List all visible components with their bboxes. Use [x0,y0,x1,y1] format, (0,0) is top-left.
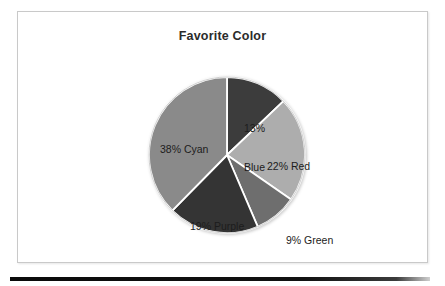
pie-label-blue-percent: 13% [244,122,265,135]
pie-label-purple: 19% Purple [190,220,244,233]
screenshot-root: Favorite Color 13% Blue 22% Red 9% Green… [0,0,445,286]
pie-label-blue-name: Blue [244,161,265,174]
pie-label-cyan: 38% Cyan [160,143,208,156]
pie-label-green: 9% Green [286,234,333,247]
page-title: Favorite Color [18,29,427,43]
pie-label-blue: 13% Blue [244,96,265,200]
bottom-divider [10,277,430,281]
pie-label-red: 22% Red [267,160,310,173]
chart-panel: Favorite Color 13% Blue 22% Red 9% Green… [17,11,428,263]
